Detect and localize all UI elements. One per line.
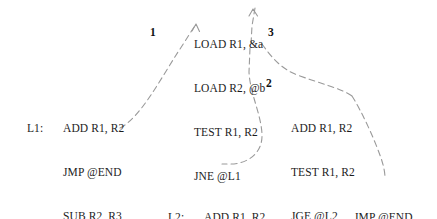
l1-line-1: L1:ADD R1, R2 <box>27 121 124 136</box>
l1-code-3: SUB R2, R3 <box>63 210 122 219</box>
end-line-1: JMP @END <box>318 210 413 219</box>
l1-code-1: ADD R1, R2 <box>63 122 124 134</box>
edge-label-3: 3 <box>268 26 274 38</box>
l1-block: L1:ADD R1, R2 JMP @END SUB R2, R3 <box>27 92 124 219</box>
edge-label-2: 2 <box>266 77 272 89</box>
entry-line-3: TEST R1, R2 <box>194 125 265 140</box>
l2-line-1: L2:ADD R1, R2 <box>168 210 265 219</box>
l2-code-1: ADD R1, R2 <box>204 211 265 219</box>
l1-code-2: JMP @END <box>63 166 122 178</box>
l2-block: L2:ADD R1, R2 END:SUB R2, R3 <box>168 181 265 219</box>
end-code-1: JMP @END <box>354 211 413 219</box>
l1-line-2: JMP @END <box>27 165 124 180</box>
right-line-2: TEST R1, R2 <box>291 165 355 180</box>
edge-label-1: 1 <box>150 26 156 38</box>
end-block: JMP @END END:SUB R2, R3 <box>318 181 413 219</box>
l2-label: L2: <box>168 210 204 219</box>
right-line-1: ADD R1, R2 <box>291 121 355 136</box>
edge-right-to-end-path <box>352 96 385 178</box>
flow-graph-diagram: LOAD R1, &a LOAD R2, @b TEST R1, R2 JNE … <box>0 0 437 219</box>
l1-label: L1: <box>27 121 63 136</box>
edge-1-path <box>120 24 196 128</box>
edge-3-path <box>262 44 352 96</box>
entry-line-2: LOAD R2, @b <box>194 81 265 96</box>
l1-line-3: SUB R2, R3 <box>27 209 124 219</box>
entry-line-1: LOAD R1, &a <box>194 37 265 52</box>
